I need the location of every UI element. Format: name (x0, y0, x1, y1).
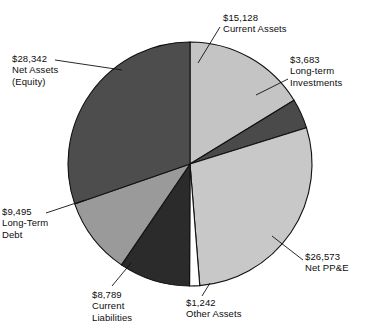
pie-chart-canvas (0, 0, 374, 328)
slice-label-current-assets: $15,128 Current Assets (223, 12, 287, 35)
slice-label-longterm-debt: $9,495 Long-Term Debt (2, 206, 48, 240)
slice-label-current-liabilities: $8,789 Current Liabilities (92, 289, 132, 323)
slice-value-longterm-investments: $3,683 (290, 54, 342, 65)
slice-label-net-assets: $28,342 Net Assets (Equity) (12, 53, 58, 87)
slice-name-current-liabilities-line1: Current (92, 300, 132, 311)
slice-name-current-assets: Current Assets (223, 23, 287, 34)
slice-name-longterm-debt-line2: Debt (2, 229, 48, 240)
leader-line-current-liabilities (112, 263, 131, 286)
slice-name-net-ppe: Net PP&E (305, 262, 349, 273)
pie-slice-group (68, 42, 312, 286)
slice-value-net-ppe: $26,573 (305, 251, 349, 262)
slice-label-other-assets: $1,242 Other Assets (186, 297, 242, 320)
slice-value-current-assets: $15,128 (223, 12, 287, 23)
slice-value-other-assets: $1,242 (186, 297, 242, 308)
slice-name-net-assets-line1: Net Assets (12, 64, 58, 75)
slice-name-longterm-investments-line2: Investments (290, 77, 342, 88)
pie-chart: $15,128 Current Assets $3,683 Long-term … (0, 0, 374, 328)
slice-value-net-assets: $28,342 (12, 53, 58, 64)
slice-name-other-assets: Other Assets (186, 308, 242, 319)
slice-label-longterm-investments: $3,683 Long-term Investments (290, 54, 342, 88)
slice-name-net-assets-line2: (Equity) (12, 76, 58, 87)
slice-name-current-liabilities-line2: Liabilities (92, 312, 132, 323)
slice-name-longterm-debt-line1: Long-Term (2, 217, 48, 228)
slice-label-net-ppe: $26,573 Net PP&E (305, 251, 349, 274)
leader-line-net-assets (55, 60, 122, 70)
slice-name-longterm-investments-line1: Long-term (290, 65, 342, 76)
slice-value-current-liabilities: $8,789 (92, 289, 132, 300)
slice-value-longterm-debt: $9,495 (2, 206, 48, 217)
